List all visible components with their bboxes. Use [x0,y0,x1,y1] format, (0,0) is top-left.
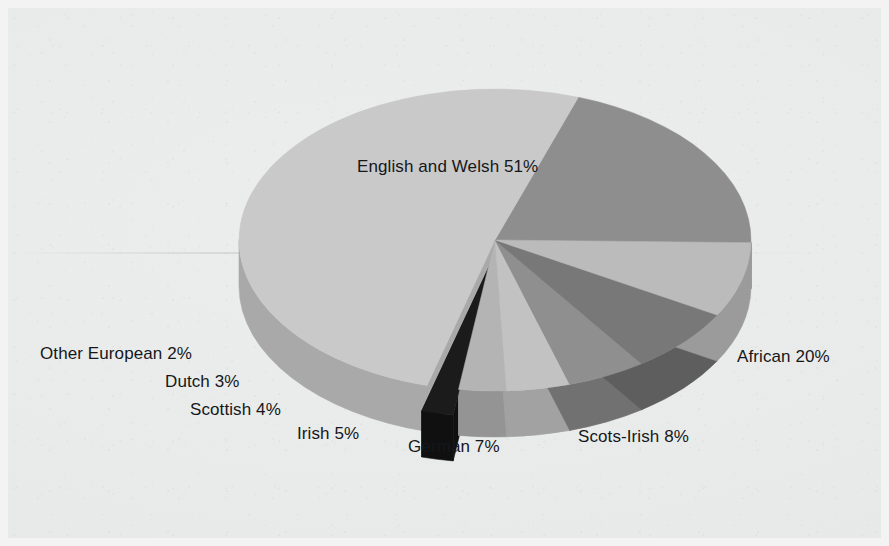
pie-chart-graphic [0,0,889,546]
slice-label-scots-irish: Scots-Irish 8% [578,428,689,445]
slice-label-irish: Irish 5% [297,425,359,442]
slice-label-dutch: Dutch 3% [165,373,240,390]
slice-label-other-european: Other European 2% [40,345,192,362]
pie-slice-side-dutch [458,389,506,437]
slice-label-scottish: Scottish 4% [190,401,281,418]
slice-label-african: African 20% [737,348,830,365]
slice-label-german: German 7% [408,438,500,455]
pie-chart-figure: English and Welsh 51% African 20% Scots-… [0,0,889,546]
slice-label-english-and-welsh: English and Welsh 51% [357,158,538,175]
